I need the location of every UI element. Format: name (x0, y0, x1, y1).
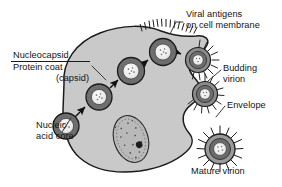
label-budding-virion: virion (223, 74, 245, 85)
label-envelope: Envelope (227, 100, 266, 111)
mature-virion-core (214, 143, 227, 156)
label-on-cell-membrane: on cell membrane (186, 20, 260, 31)
label-budding: Budding (223, 63, 257, 74)
label-acid-core: acid core (36, 131, 74, 142)
nucleocapsid-4 (150, 39, 177, 66)
leader-viral-antigens (170, 22, 183, 34)
label-capsid: (capsid) (13, 73, 89, 84)
leader-envelope (216, 106, 225, 117)
label-protein-coat: Protein coat (13, 62, 63, 73)
leader-budding (208, 70, 221, 81)
figure-canvas: Nucleocapsid Protein coat (capsid) Nucle… (0, 0, 282, 187)
nucleocapsid-3 (118, 58, 145, 85)
label-mature-virion: Mature virion (191, 166, 245, 177)
label-nucleocapsid: Nucleocapsid (13, 50, 69, 61)
nucleocapsid-2 (86, 84, 112, 110)
label-viral-antigens: Viral antigens (186, 9, 242, 20)
label-nucleic: Nucleic (36, 120, 66, 131)
